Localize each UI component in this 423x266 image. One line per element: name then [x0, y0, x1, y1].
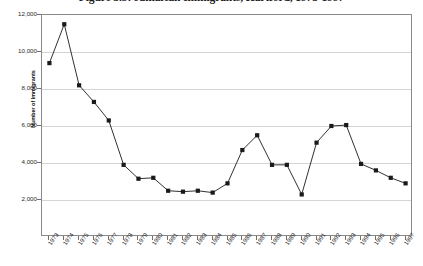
x-axis-tickmark: [345, 236, 346, 240]
x-axis-tickmark: [152, 236, 153, 240]
x-axis-tickmark: [286, 236, 287, 240]
x-axis-tickmark: [390, 236, 391, 240]
x-axis-tickmark: [330, 236, 331, 240]
x-axis-tickmark: [301, 236, 302, 240]
x-axis-tickmark: [197, 236, 198, 240]
x-axis-tickmark: [271, 236, 272, 240]
y-axis-tickmark: [37, 14, 41, 15]
figure-container: Figure 3.5: Jamaican Immigrants, Hartfor…: [0, 0, 423, 266]
x-axis-tickmark: [108, 236, 109, 240]
x-axis-tickmark: [123, 236, 124, 240]
x-axis-tickmark: [78, 236, 79, 240]
x-axis-tickmark: [256, 236, 257, 240]
x-axis-tickmark: [137, 236, 138, 240]
y-axis-tickmark: [37, 51, 41, 52]
x-axis-tickmark: [316, 236, 317, 240]
y-axis-tickmark: [37, 199, 41, 200]
x-axis-tickmark: [241, 236, 242, 240]
x-axis-tickmark: [375, 236, 376, 240]
y-axis-tickmark: [37, 162, 41, 163]
x-axis-tickmark: [405, 236, 406, 240]
x-axis-tickmark: [63, 236, 64, 240]
x-axis-tickmark: [48, 236, 49, 240]
x-axis-tickmark: [182, 236, 183, 240]
x-axis-tickmark: [360, 236, 361, 240]
x-axis-tickmark: [227, 236, 228, 240]
x-axis-tickmark: [212, 236, 213, 240]
x-axis-tick-labels: 1973197419751976197719781979198019811982…: [0, 0, 423, 266]
y-axis-tickmark: [37, 125, 41, 126]
x-axis-tickmark: [93, 236, 94, 240]
x-axis-tickmark: [167, 236, 168, 240]
y-axis-tickmark: [37, 88, 41, 89]
